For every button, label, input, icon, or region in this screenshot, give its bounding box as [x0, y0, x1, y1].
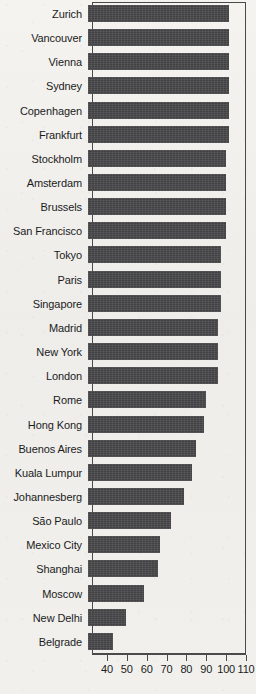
bar: [88, 53, 229, 70]
bar-row: Paris: [0, 268, 256, 292]
bar-row: Johannesberg: [0, 485, 256, 509]
bar-track: [87, 316, 251, 340]
bar-row: Belgrade: [0, 630, 256, 654]
bar-category-label: Shanghai: [0, 563, 87, 575]
bar-category-label: Copenhagen: [0, 105, 87, 117]
bar-row: New Delhi: [0, 606, 256, 630]
bar-category-label: Frankfurt: [0, 129, 87, 141]
bar-track: [87, 413, 251, 437]
x-axis-tick: [167, 655, 168, 661]
bar-track: [87, 485, 251, 509]
bar-category-label: Vienna: [0, 56, 87, 68]
bar-row: Copenhagen: [0, 99, 256, 123]
x-axis-tick: [147, 655, 148, 661]
bar-row: Moscow: [0, 582, 256, 606]
bar: [88, 464, 192, 481]
bar: [88, 150, 226, 167]
bar: [88, 416, 204, 433]
bar: [88, 391, 206, 408]
bar: [88, 560, 158, 577]
bar-category-label: Kuala Lumpur: [0, 467, 87, 479]
bar-category-label: Vancouver: [0, 32, 87, 44]
bar: [88, 536, 160, 553]
bar-category-label: Tokyo: [0, 249, 87, 261]
bar-category-label: Buenos Aires: [0, 443, 87, 455]
bar-track: [87, 219, 251, 243]
x-axis-tick-label: 110: [234, 663, 256, 676]
bar-category-label: London: [0, 370, 87, 382]
x-axis-tick: [186, 655, 187, 661]
bar-category-label: Singapore: [0, 298, 87, 310]
bar-row: Brussels: [0, 195, 256, 219]
chart-page: ZurichVancouverViennaSydneyCopenhagenFra…: [0, 0, 256, 694]
bar-category-label: Mexico City: [0, 539, 87, 551]
bar: [88, 295, 221, 312]
bar: [88, 174, 226, 191]
bar-category-label: Stockholm: [0, 153, 87, 165]
bar-category-label: Brussels: [0, 201, 87, 213]
bar-track: [87, 243, 251, 267]
bar-row: Mexico City: [0, 533, 256, 557]
bar-category-label: Madrid: [0, 322, 87, 334]
bar: [88, 246, 221, 263]
x-axis-line: [92, 654, 246, 655]
x-axis-tick: [206, 655, 207, 661]
bar: [88, 5, 229, 22]
bar-category-label: San Francisco: [0, 225, 87, 237]
bar: [88, 343, 218, 360]
bar-track: [87, 509, 251, 533]
bar: [88, 609, 126, 626]
bar-track: [87, 533, 251, 557]
bar-row: São Paulo: [0, 509, 256, 533]
bar-track: [87, 606, 251, 630]
bar-track: [87, 74, 251, 98]
x-axis-tick: [127, 655, 128, 661]
bar-track: [87, 147, 251, 171]
bar-track: [87, 364, 251, 388]
bar: [88, 319, 218, 336]
bar-track: [87, 582, 251, 606]
bar-category-label: Johannesberg: [0, 491, 87, 503]
bar-category-label: Sydney: [0, 80, 87, 92]
bar-category-label: New York: [0, 346, 87, 358]
bar-category-label: Moscow: [0, 588, 87, 600]
bar: [88, 440, 196, 457]
bar-category-label: Zurich: [0, 8, 87, 20]
bar-track: [87, 195, 251, 219]
bar-category-label: São Paulo: [0, 515, 87, 527]
bar-track: [87, 461, 251, 485]
bar-track: [87, 123, 251, 147]
bar: [88, 367, 218, 384]
bar-row: Sydney: [0, 74, 256, 98]
bar: [88, 488, 184, 505]
bar: [88, 271, 221, 288]
bar-row: Vienna: [0, 50, 256, 74]
bar-row: Shanghai: [0, 557, 256, 581]
bar-row: Amsterdam: [0, 171, 256, 195]
bar-category-label: Amsterdam: [0, 177, 87, 189]
bar-category-label: New Delhi: [0, 612, 87, 624]
bar-category-label: Belgrade: [0, 636, 87, 648]
bar-row: Tokyo: [0, 243, 256, 267]
bar: [88, 198, 226, 215]
bar-row: Madrid: [0, 316, 256, 340]
bar-row: Vancouver: [0, 26, 256, 50]
x-axis-tick: [107, 655, 108, 661]
bar-track: [87, 292, 251, 316]
bar-category-label: Hong Kong: [0, 419, 87, 431]
bar-track: [87, 26, 251, 50]
bar-row: Frankfurt: [0, 123, 256, 147]
bar-track: [87, 340, 251, 364]
bar-row: Rome: [0, 388, 256, 412]
bar-track: [87, 99, 251, 123]
bar-rows-container: ZurichVancouverViennaSydneyCopenhagenFra…: [0, 2, 256, 654]
bar-track: [87, 171, 251, 195]
bar: [88, 633, 113, 650]
bar-track: [87, 50, 251, 74]
x-axis: 405060708090100110: [92, 654, 246, 694]
bar-track: [87, 630, 251, 654]
bar-row: Kuala Lumpur: [0, 461, 256, 485]
bar-track: [87, 437, 251, 461]
bar-row: Singapore: [0, 292, 256, 316]
bar-row: New York: [0, 340, 256, 364]
